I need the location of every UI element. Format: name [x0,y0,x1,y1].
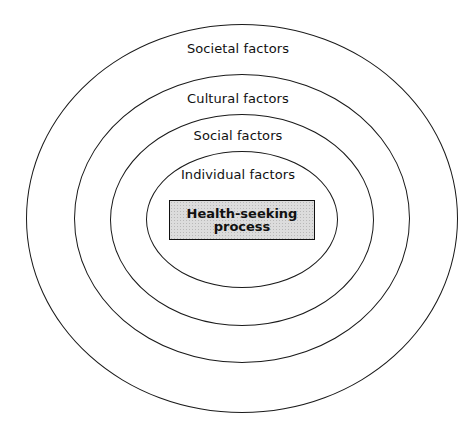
core-label-line2: process [214,220,271,233]
label-cultural-factors: Cultural factors [0,91,476,107]
label-societal-factors: Societal factors [0,41,476,57]
health-seeking-process-box: Health-seeking process [169,200,315,240]
label-social-factors: Social factors [0,128,476,144]
health-seeking-diagram: Societal factors Cultural factors Social… [0,0,476,432]
label-individual-factors: Individual factors [0,167,476,183]
